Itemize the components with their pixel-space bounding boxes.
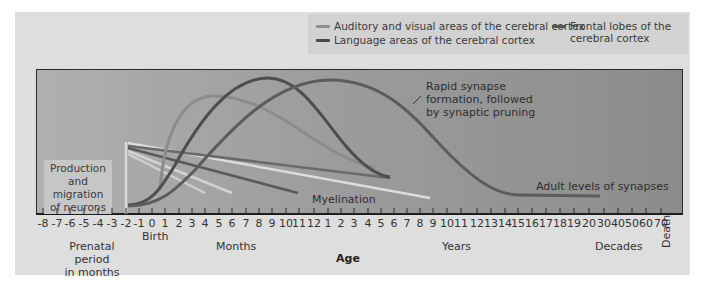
axis-label-prenatal-line1: Prenatal period (52, 240, 132, 266)
x-tick-label: 18 (553, 217, 567, 230)
axis-title-age: Age (336, 252, 360, 265)
x-tick-label: 12 (307, 217, 321, 230)
x-tick-label: 16 (525, 217, 539, 230)
x-tick-label: 7 (404, 217, 411, 230)
annotation-rapid-line1: Rapid synapse (426, 80, 535, 93)
x-tick-label: -8 (38, 217, 49, 230)
x-tick-label: 1 (325, 217, 332, 230)
axis-label-birth: Birth (142, 230, 168, 243)
x-tick-label: 9 (430, 217, 437, 230)
x-tick-label: 60 (639, 217, 653, 230)
x-tick-label: 14 (498, 217, 512, 230)
axis-label-years: Years (442, 240, 471, 253)
x-tick-label: 3 (189, 217, 196, 230)
x-tick-label: 4 (202, 217, 209, 230)
x-tick-label: 5 (378, 217, 385, 230)
x-tick-label: 17 (539, 217, 553, 230)
annotation-rapid-line3: by synaptic pruning (426, 106, 535, 119)
axis-label-months: Months (216, 240, 256, 253)
x-tick-label: 1 (162, 217, 169, 230)
x-tick-label: 4 (365, 217, 372, 230)
x-tick-label: 19 (567, 217, 581, 230)
x-tick-label: 2 (176, 217, 183, 230)
annotation-myelination: Myelination (312, 193, 376, 206)
axis-label-death: Death (660, 215, 673, 248)
x-tick-label: 12 (470, 217, 484, 230)
x-tick-label: 7 (243, 217, 250, 230)
x-tick-label: 2 (338, 217, 345, 230)
x-tick-label: 13 (484, 217, 498, 230)
x-tick-label: 10 (440, 217, 454, 230)
x-tick-label: 50 (625, 217, 639, 230)
x-tick-label: 6 (229, 217, 236, 230)
x-tick-label: -5 (79, 217, 90, 230)
x-tick-label: 5 (216, 217, 223, 230)
x-tick-label: 30 (597, 217, 611, 230)
x-tick-label: 15 (511, 217, 525, 230)
axis-label-prenatal-line2: in months (52, 266, 132, 279)
x-tick-label: -3 (107, 217, 118, 230)
x-tick-label: -6 (65, 217, 76, 230)
x-tick-label: -1 (134, 217, 145, 230)
annotation-adult-synapses: Adult levels of synapses (536, 180, 669, 193)
axis-label-decades: Decades (595, 240, 643, 253)
x-tick-label: -4 (93, 217, 104, 230)
x-tick-label: 9 (269, 217, 276, 230)
x-tick-label: 20 (582, 217, 596, 230)
x-tick-label: 6 (391, 217, 398, 230)
x-tick-label: -2 (121, 217, 132, 230)
x-tick-label: -7 (52, 217, 63, 230)
annotation-rapid-line2: formation, followed (426, 93, 535, 106)
x-axis-ticks (43, 208, 661, 214)
x-tick-label: 11 (292, 217, 306, 230)
x-tick-label: 11 (454, 217, 468, 230)
x-tick-label: 40 (611, 217, 625, 230)
x-tick-label: 8 (417, 217, 424, 230)
annotation-leader-line (413, 96, 421, 104)
x-tick-label: 0 (149, 217, 156, 230)
x-tick-label: 10 (279, 217, 293, 230)
x-tick-label: 3 (351, 217, 358, 230)
x-tick-label: 8 (256, 217, 263, 230)
axis-label-prenatal: Prenatal period in months (52, 240, 132, 279)
annotation-rapid-synapse: Rapid synapse formation, followed by syn… (426, 80, 535, 119)
